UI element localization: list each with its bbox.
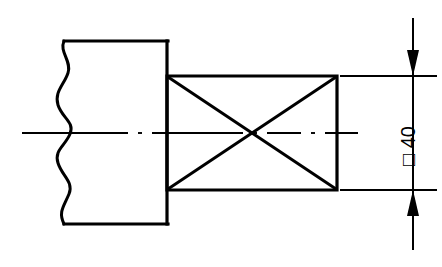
drawing-vector-surface: [0, 0, 442, 267]
dimension-arrow-bottom: [407, 190, 419, 216]
dimension-arrow-top: [407, 50, 419, 76]
engineering-drawing-canvas: □ 40: [0, 0, 442, 267]
dimension-label-square-40: □ 40: [398, 126, 418, 166]
